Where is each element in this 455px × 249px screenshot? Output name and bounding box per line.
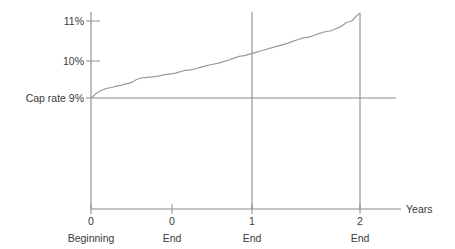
x-axis-number-1-end: 1 — [249, 216, 255, 227]
x-axis-number-0-beginning: 0 — [88, 216, 94, 227]
x-axis-number-2-end: 2 — [357, 216, 363, 227]
y-axis-label-11-percent: 11% — [48, 16, 84, 27]
x-axis-title-years: Years — [406, 204, 432, 215]
cap-rate-chart: 11% 10% Cap rate 9% 0 0 1 2 Beginning En… — [0, 0, 455, 249]
y-axis-label-10-percent: 10% — [48, 56, 84, 67]
y-axis-label-cap-rate-9-percent: Cap rate 9% — [10, 93, 84, 104]
x-axis-period-0-end: End — [163, 233, 182, 244]
x-axis-period-1-end: End — [243, 233, 262, 244]
x-axis-period-beginning: Beginning — [68, 233, 115, 244]
x-axis-period-2-end: End — [351, 233, 370, 244]
cap-rate-curve — [91, 13, 360, 98]
x-axis-number-0-end: 0 — [169, 216, 175, 227]
chart-canvas — [0, 0, 455, 249]
